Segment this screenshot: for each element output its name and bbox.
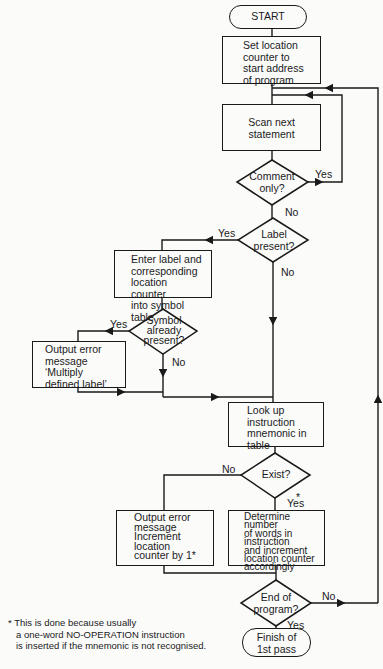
text-line: Look up — [247, 405, 317, 417]
symbol-no-label: No — [172, 356, 185, 368]
text-line: Enter label and — [131, 254, 205, 266]
exist-text: Exist? — [250, 469, 302, 481]
footnote: * This is done because usually a one-wor… — [8, 617, 218, 652]
text-line: only? — [242, 183, 302, 195]
text-line: of program — [243, 75, 314, 87]
output-error-increment-box: Output error message Increment location … — [116, 510, 214, 566]
comment-no-label: No — [285, 206, 298, 218]
text-line: Output error — [45, 344, 119, 356]
text-line: mnemonic in — [247, 428, 317, 440]
footnote-line: is inserted if the mnemonic is not recog… — [8, 640, 218, 652]
text-line: defined label’ — [45, 379, 119, 391]
flowchart-connectors — [0, 0, 383, 669]
set-location-box: Set location counter to start address of… — [222, 36, 321, 84]
text-line: Exist? — [250, 469, 302, 481]
text-line: accordingly — [244, 563, 322, 571]
comment-only-text: Comment only? — [242, 171, 302, 194]
finish-terminal: Finish of 1st pass — [242, 628, 311, 657]
output-error-multiply-box: Output error message ‘Multiply defined l… — [32, 341, 126, 388]
text-line: present? — [244, 241, 304, 253]
footnote-line: * This is done because usually — [8, 617, 218, 629]
exist-no-label: No — [222, 463, 235, 475]
footnote-line: a one-word NO-OPERATION instruction — [8, 629, 218, 641]
text-line: start address — [243, 63, 314, 75]
text-line: Set location — [243, 40, 314, 52]
text-line: program? — [246, 604, 306, 616]
symbol-present-text: Symbol already present? — [138, 315, 190, 345]
text-line: End of — [246, 592, 306, 604]
text-line: ‘Multiply — [45, 367, 119, 379]
end-of-program-text: End of program? — [246, 592, 306, 615]
text-line: table — [247, 440, 317, 452]
text-line: Label — [244, 229, 304, 241]
flowchart-canvas: START Set location counter to start addr… — [0, 0, 383, 669]
label-yes-label: Yes — [218, 227, 235, 239]
text-line: Comment — [242, 171, 302, 183]
start-terminal: START — [229, 5, 307, 29]
start-label: START — [251, 11, 284, 23]
text-line: location counter — [131, 277, 205, 300]
text-line: 1st pass — [257, 643, 296, 655]
determine-box: Determine number of words in instruction… — [228, 510, 325, 566]
symbol-yes-label: Yes — [110, 318, 127, 330]
comment-yes-label: Yes — [315, 168, 332, 180]
label-present-text: Label present? — [244, 229, 304, 252]
text-line: present? — [138, 335, 190, 345]
end-no-label: No — [322, 590, 335, 602]
enter-label-box: Enter label and corresponding location c… — [114, 250, 212, 298]
scan-statement-box: Scan next statement — [222, 104, 321, 151]
text-line: Finish of — [257, 631, 297, 643]
text-line: counter by 1* — [134, 551, 207, 561]
exist-yes-label: Yes — [287, 497, 304, 509]
look-up-box: Look up instruction mnemonic in table — [228, 402, 324, 447]
text-line: Scan next — [229, 117, 314, 129]
label-no-label: No — [281, 266, 294, 278]
text-line: statement — [229, 129, 314, 141]
